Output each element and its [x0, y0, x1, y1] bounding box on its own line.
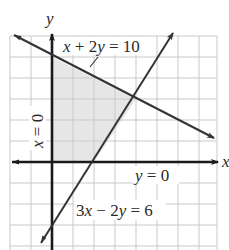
label-line2: 3x − 2y = 6	[76, 201, 153, 220]
x-axis-label: x	[221, 152, 229, 171]
label-line1: x + 2y = 10	[62, 37, 140, 56]
label-line3: y = 0	[133, 166, 169, 185]
label-line4: x = 0	[28, 114, 47, 149]
x-axis-left-arrow-icon	[12, 160, 19, 165]
inequality-graph: y x x + 2y = 10 y = 0 3x − 2y = 6 x = 0	[0, 0, 229, 250]
y-axis-label: y	[44, 9, 54, 28]
